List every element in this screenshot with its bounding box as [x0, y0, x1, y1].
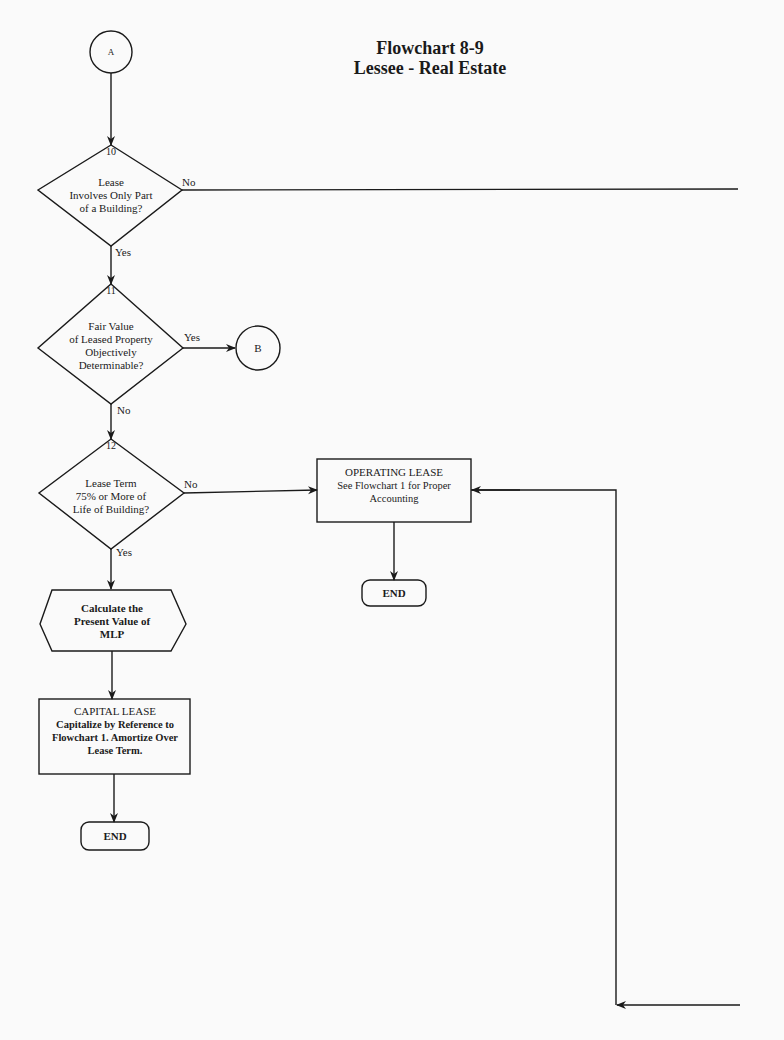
operating-lease-box: OPERATING LEASE See Flowchart 1 for Prop… — [318, 466, 470, 505]
operating-lease-heading: OPERATING LEASE — [318, 466, 470, 479]
decision-11-no-label: No — [117, 404, 130, 416]
decision-12-yes-label: Yes — [116, 546, 132, 558]
capital-lease-box: CAPITAL LEASE Capitalize by Reference to… — [40, 705, 190, 757]
decision-12-text: Lease Term 75% or More of Life of Buildi… — [50, 477, 172, 516]
operating-lease-line: See Flowchart 1 for Proper — [318, 479, 470, 492]
decision-11-text: Fair Value of Leased Property Objectivel… — [50, 320, 172, 372]
decision-12-number: 12 — [101, 440, 121, 451]
decision-11-line: Determinable? — [50, 359, 172, 372]
end-left: END — [81, 830, 149, 843]
decision-12-line: 75% or More of — [50, 490, 172, 503]
connector-a-label: A — [100, 46, 122, 59]
decision-10-number: 10 — [101, 146, 121, 157]
connector-b-label: B — [247, 342, 269, 355]
decision-11-number: 11 — [101, 285, 121, 296]
decision-12-line: Life of Building? — [50, 503, 172, 516]
capital-lease-line: Capitalize by Reference to — [40, 718, 190, 731]
decision-11-line: Objectively — [50, 346, 172, 359]
decision-11-line: Fair Value — [50, 320, 172, 333]
process-line: MLP — [52, 628, 172, 641]
decision-10-line: Lease — [50, 176, 172, 189]
process-present-value: Calculate the Present Value of MLP — [52, 602, 172, 641]
decision-12-line: Lease Term — [50, 477, 172, 490]
capital-lease-heading: CAPITAL LEASE — [40, 705, 190, 718]
decision-12-no-label: No — [184, 478, 197, 490]
decision-11-yes-label: Yes — [184, 331, 200, 343]
end-middle: END — [362, 587, 426, 600]
decision-10-text: Lease Involves Only Part of a Building? — [50, 176, 172, 215]
decision-11-line: of Leased Property — [50, 333, 172, 346]
decision-10-yes-label: Yes — [115, 246, 131, 258]
process-line: Present Value of — [52, 615, 172, 628]
capital-lease-line: Lease Term. — [40, 744, 190, 757]
capital-lease-line: Flowchart 1. Amortize Over — [40, 731, 190, 744]
decision-10-line: of a Building? — [50, 202, 172, 215]
operating-lease-line: Accounting — [318, 492, 470, 505]
decision-10-no-label: No — [182, 176, 195, 188]
process-line: Calculate the — [52, 602, 172, 615]
decision-10-line: Involves Only Part — [50, 189, 172, 202]
